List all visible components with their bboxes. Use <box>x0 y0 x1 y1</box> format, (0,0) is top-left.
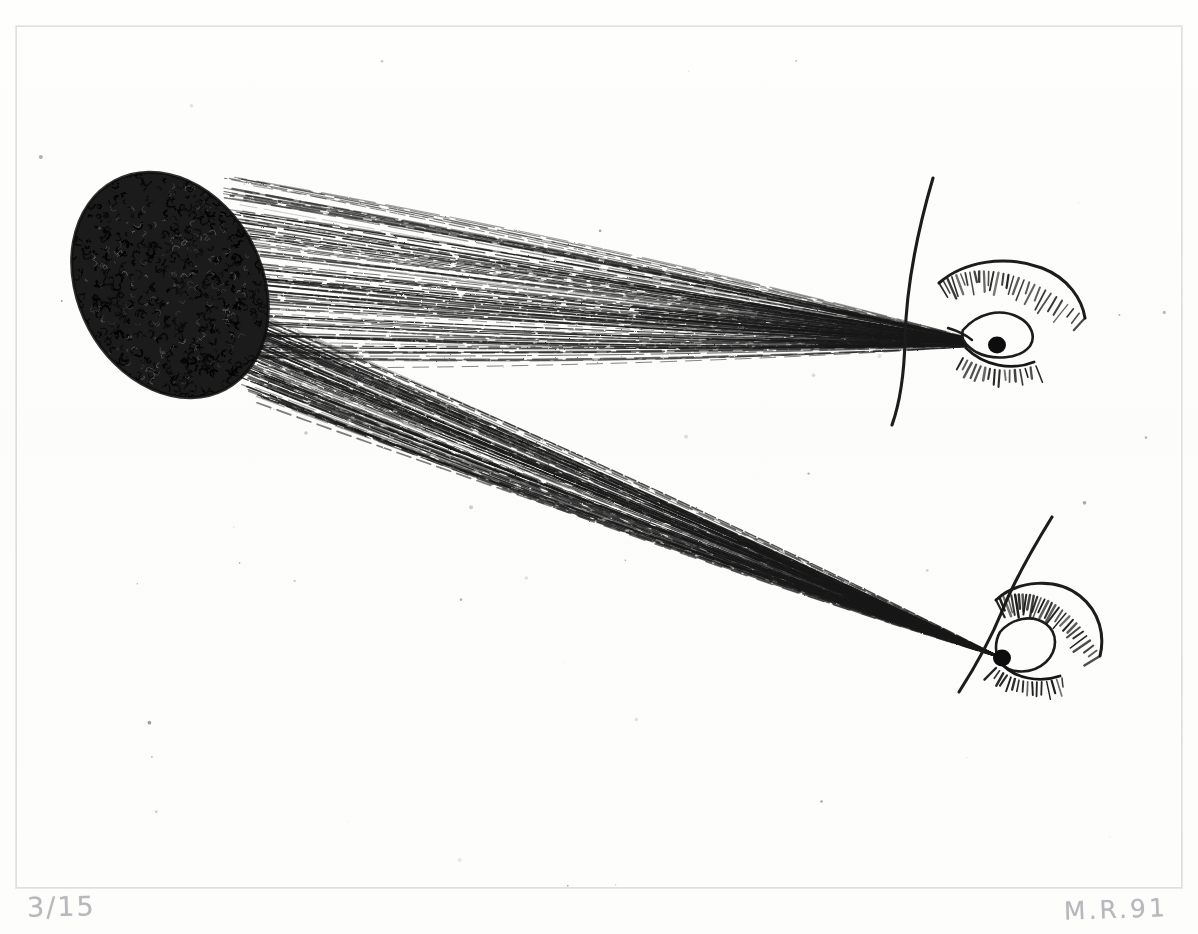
long-curved-hair-line <box>892 178 933 425</box>
dark-scribbled-ovoid <box>33 138 306 433</box>
eye-pupil <box>988 337 1006 354</box>
upper-ray-bundle <box>223 177 997 367</box>
upper-right-eye <box>892 178 1085 425</box>
artist-signature-inscription: M.R.91 <box>1064 893 1169 926</box>
eye-pupil <box>993 650 1011 667</box>
lower-right-eye <box>959 517 1102 699</box>
etching-artwork <box>0 0 1198 934</box>
artwork-sheet: 3/15 M.R.91 <box>0 0 1198 934</box>
edition-number-inscription: 3/15 <box>27 890 96 923</box>
